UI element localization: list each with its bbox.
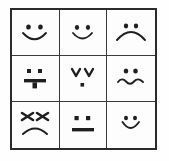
smiling-face-icon [62,15,104,51]
grid-cell-tongue-out-face: Face with tongue sticking out [12,56,60,102]
grid-cell-angry-face: Angry face [12,102,60,148]
grid-cell-smiling-face-1: Smiling face [12,10,60,56]
grid-cell-confused-face: Confused face with wavy mouth [107,56,155,102]
closed-eyes-face-icon [63,62,103,96]
face-grid: Smiling face Smiling face Frowning sad f… [10,8,157,150]
tongue-out-face-icon [15,62,55,96]
smiling-face-icon [112,108,150,142]
emoticon-grid-image: Smiling face Smiling face Frowning sad f… [0,0,169,161]
grid-cell-closed-eyes-face: Face with closed v-shaped eyes [60,56,108,102]
angry-face-icon [14,107,56,143]
smiling-face-icon [13,14,57,52]
grid-cell-neutral-face: Neutral face [60,102,108,148]
grid-cell-smiling-face-3: Small smiling face [107,102,155,148]
grid-cell-smiling-face-2: Smiling face [60,10,108,56]
frowning-face-icon [109,15,153,51]
neutral-face-icon [63,108,103,142]
confused-face-icon [110,62,152,96]
grid-cell-frowning-face: Frowning sad face [107,10,155,56]
